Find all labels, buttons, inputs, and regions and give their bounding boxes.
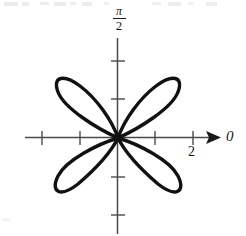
- two-denominator: 2: [108, 20, 130, 32]
- vertical-axis-label: π 2: [108, 6, 130, 32]
- polar-axis-label: 0: [226, 129, 234, 144]
- polar-rose-plot: [0, 0, 246, 236]
- pi-numerator: π: [108, 6, 130, 17]
- x-tick-label-2: 2: [188, 145, 195, 159]
- plot-background: [0, 0, 246, 236]
